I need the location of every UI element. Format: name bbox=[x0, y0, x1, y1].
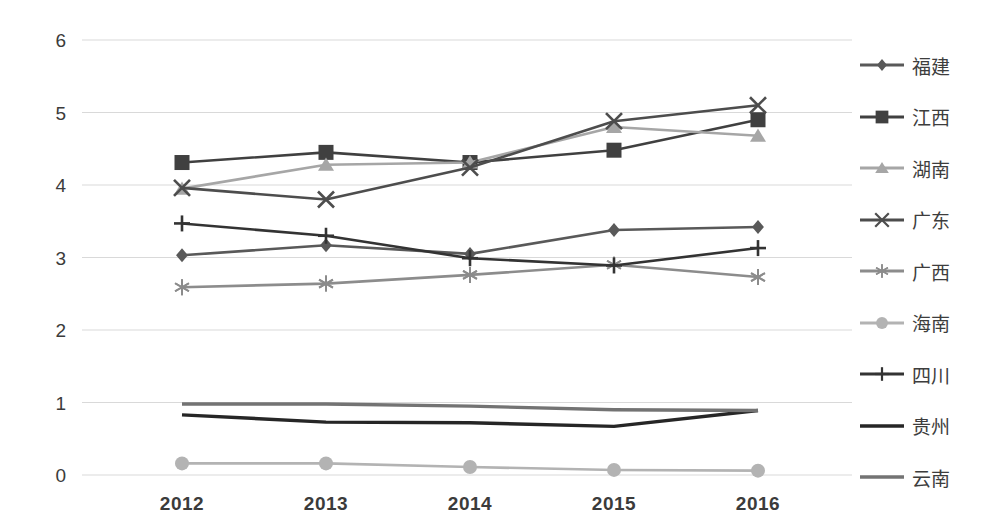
legend-marker-triangle-icon bbox=[858, 157, 906, 179]
legend-item-福建[interactable]: 福建 bbox=[858, 52, 950, 78]
legend-item-广东[interactable]: 广东 bbox=[858, 207, 950, 233]
series-line bbox=[182, 410, 758, 426]
legend-item-四川[interactable]: 四川 bbox=[858, 361, 950, 387]
legend-item-广西[interactable]: 广西 bbox=[858, 258, 950, 284]
x-axis-tick-label: 2012 bbox=[160, 493, 204, 514]
y-axis-tick-label: 0 bbox=[55, 465, 66, 486]
legend-marker-diamond-icon bbox=[858, 54, 906, 76]
legend-item-云南[interactable]: 云南 bbox=[858, 464, 950, 490]
x-axis-tick-label: 2014 bbox=[448, 493, 492, 514]
chart-series bbox=[174, 215, 766, 273]
legend-marker-plus-icon bbox=[858, 363, 906, 385]
chart-series bbox=[174, 97, 766, 207]
data-point-marker bbox=[606, 257, 622, 273]
data-point-marker bbox=[751, 112, 766, 127]
chart-canvas: 0123456 20122013201420152016 bbox=[0, 0, 860, 524]
plot-area: 0123456 20122013201420152016 bbox=[0, 0, 860, 524]
legend-label: 四川 bbox=[912, 361, 950, 388]
legend-label: 贵州 bbox=[912, 412, 950, 439]
legend-label: 云南 bbox=[912, 464, 950, 491]
data-point-marker bbox=[876, 110, 889, 123]
data-point-marker bbox=[319, 456, 333, 470]
chart-series bbox=[182, 404, 758, 411]
data-point-marker bbox=[318, 228, 334, 244]
y-axis-labels: 0123456 bbox=[55, 30, 66, 486]
chart-series bbox=[175, 456, 765, 477]
series-line bbox=[182, 404, 758, 411]
legend-marker-line-icon bbox=[858, 466, 906, 488]
data-point-marker bbox=[607, 143, 622, 158]
x-axis-labels: 20122013201420152016 bbox=[160, 493, 780, 514]
y-axis-tick-label: 4 bbox=[55, 175, 66, 196]
data-point-marker bbox=[750, 240, 766, 256]
y-axis-tick-label: 1 bbox=[55, 393, 66, 414]
data-point-marker bbox=[876, 317, 888, 329]
legend-marker-circle-icon bbox=[858, 312, 906, 334]
legend-item-湖南[interactable]: 湖南 bbox=[858, 155, 950, 181]
data-point-marker bbox=[175, 155, 190, 170]
legend-marker-square-icon bbox=[858, 106, 906, 128]
legend-marker-line-icon bbox=[858, 415, 906, 437]
legend-item-海南[interactable]: 海南 bbox=[858, 310, 950, 336]
data-point-marker bbox=[875, 367, 889, 381]
legend-marker-x-icon bbox=[858, 209, 906, 231]
y-axis-tick-label: 3 bbox=[55, 248, 66, 269]
legend-item-贵州[interactable]: 贵州 bbox=[858, 413, 950, 439]
data-point-marker bbox=[176, 248, 188, 262]
data-point-marker bbox=[608, 223, 620, 237]
x-axis-tick-label: 2015 bbox=[592, 493, 636, 514]
x-axis-tick-label: 2013 bbox=[304, 493, 348, 514]
legend-label: 广西 bbox=[912, 258, 950, 285]
legend-marker-asterisk-icon bbox=[858, 260, 906, 282]
data-point-marker bbox=[877, 59, 887, 71]
y-axis-tick-label: 6 bbox=[55, 30, 66, 51]
series-lines bbox=[174, 97, 766, 477]
legend-label: 江西 bbox=[912, 103, 950, 130]
x-axis-tick-label: 2016 bbox=[736, 493, 780, 514]
legend-label: 广东 bbox=[912, 206, 950, 233]
y-axis-tick-label: 5 bbox=[55, 103, 66, 124]
chart-series bbox=[182, 410, 758, 426]
legend-item-江西[interactable]: 江西 bbox=[858, 104, 950, 130]
chart-legend: 福建江西湖南广东广西海南四川贵州云南 bbox=[858, 52, 982, 512]
line-chart: 0123456 20122013201420152016 福建江西湖南广东广西海… bbox=[0, 0, 982, 524]
legend-label: 福建 bbox=[912, 52, 950, 79]
data-point-marker bbox=[751, 464, 765, 478]
data-point-marker bbox=[175, 456, 189, 470]
legend-label: 海南 bbox=[912, 309, 950, 336]
legend-label: 湖南 bbox=[912, 155, 950, 182]
y-axis-tick-label: 2 bbox=[55, 320, 66, 341]
data-point-marker bbox=[607, 463, 621, 477]
data-point-marker bbox=[463, 460, 477, 474]
data-point-marker bbox=[174, 215, 190, 231]
data-point-marker bbox=[752, 220, 764, 234]
